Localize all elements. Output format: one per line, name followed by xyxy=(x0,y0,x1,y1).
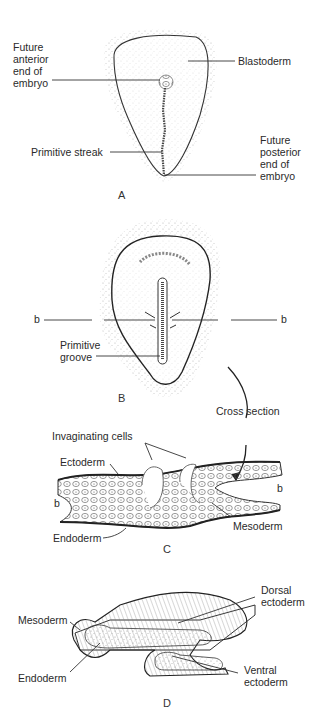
panel-letter-a: A xyxy=(118,189,125,201)
label-section-b-left: b xyxy=(34,313,40,325)
panel-letter-b: B xyxy=(118,392,125,404)
panel-letter-c: C xyxy=(163,543,171,555)
label-mesoderm-d: Mesoderm xyxy=(18,614,68,626)
label-primitive-streak: Primitive streak xyxy=(31,146,103,158)
label-section-b-left-c: b xyxy=(54,497,60,509)
panel-a-blastoderm xyxy=(104,29,217,182)
label-invaginating-cells: Invaginating cells xyxy=(52,430,133,442)
label-dorsal-ectoderm: Dorsal ectoderm xyxy=(261,584,305,608)
label-ectoderm: Ectoderm xyxy=(60,456,105,468)
label-mesoderm-c: Mesoderm xyxy=(233,520,283,532)
panel-d-folded-layers xyxy=(72,592,255,676)
label-future-anterior-end: Future anterior end of embryo xyxy=(13,41,49,89)
label-endoderm-c: Endoderm xyxy=(53,532,101,544)
label-section-b-right: b xyxy=(281,313,287,325)
label-endoderm-d: Endoderm xyxy=(18,672,66,684)
label-blastoderm: Blastoderm xyxy=(238,55,291,67)
panel-letter-d: D xyxy=(163,697,171,709)
label-section-b-right-c: b xyxy=(277,482,283,494)
panel-c-cross-section xyxy=(58,462,282,528)
label-ventral-ectoderm: Ventral ectoderm xyxy=(244,664,288,688)
label-cross-section: Cross section xyxy=(216,405,280,417)
label-future-posterior-end: Future posterior end of embryo xyxy=(260,134,301,182)
label-primitive-groove: Primitive groove xyxy=(60,339,100,363)
panel-b-blastoderm xyxy=(100,219,220,397)
